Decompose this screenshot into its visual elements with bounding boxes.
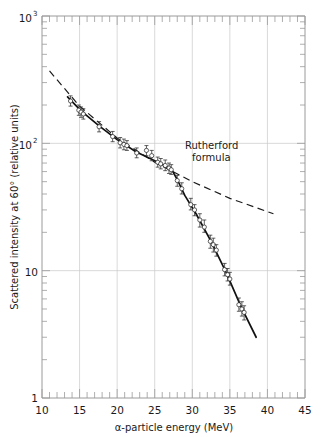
y-tick-label-10: 10 [25,266,38,278]
rutherford-formula-annotation: Rutherford formula [185,140,238,163]
data-point-marker [237,303,241,307]
chart-svg: 1015202530354045 1 10 10 2 10 3 Scattere… [0,0,330,437]
data-point-marker [159,162,163,166]
x-tick-label: 10 [35,404,48,416]
y-axis-title: Scattered intensity at 60° (relative uni… [9,104,20,310]
data-point-marker [198,218,202,222]
x-tick-label: 20 [110,404,123,416]
data-point-marker [222,267,226,271]
y-tick-label-1: 1 [31,392,38,404]
x-tick-label: 40 [261,404,274,416]
y-tick-label-1000-exponent: 3 [33,10,37,18]
x-tick-label: 30 [186,404,199,416]
y-tick-label-100-exponent: 2 [33,137,37,145]
data-point-marker [68,99,72,103]
y-tick-label-1000: 10 [19,12,32,24]
x-tick-label: 35 [223,404,236,416]
data-point-marker [125,143,129,147]
rutherford-annotation-line2: formula [192,152,231,163]
data-point-marker [135,151,139,155]
data-point-marker [226,273,230,277]
data-point-marker [81,112,85,116]
data-point-marker [202,225,206,229]
x-axis-title-text: α-particle energy (MeV) [115,422,234,433]
chart-background [0,0,330,437]
x-tick-label: 25 [148,404,161,416]
x-tick-label: 45 [298,404,311,416]
data-point-marker [163,163,167,167]
data-point-marker [169,168,173,172]
data-point-marker [111,134,115,138]
data-point-marker [180,187,184,191]
data-point-marker [214,248,218,252]
x-axis-title: α-particle energy (MeV) [115,422,234,433]
x-tick-label: 15 [73,404,86,416]
data-point-marker [189,203,193,207]
scattered-intensity-chart: 1015202530354045 1 10 10 2 10 3 Scattere… [0,0,330,437]
data-point-marker [144,148,148,152]
data-point-marker [150,154,154,158]
rutherford-annotation-line1: Rutherford [185,140,238,151]
y-tick-label-100: 10 [19,139,32,151]
data-point-marker [192,208,196,212]
data-point-marker [242,310,246,314]
data-point-marker [175,178,179,182]
data-point-marker [97,125,101,129]
data-point-marker [228,277,232,281]
x-axis-title-rest: -particle energy (MeV) [121,422,233,433]
